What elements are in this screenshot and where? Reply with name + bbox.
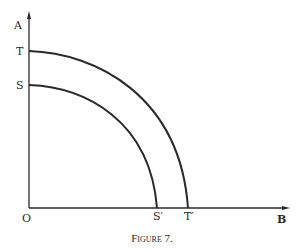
figure-caption: Figure 7. [131, 232, 173, 244]
label-origin: O [22, 212, 31, 225]
figure-7-diagram: A T S O S′ T′ B Figure 7. [0, 0, 304, 249]
label-S: S [16, 79, 24, 92]
inner-curve-S [29, 85, 157, 208]
label-T: T [16, 45, 24, 58]
label-T-prime: T′ [184, 210, 194, 223]
outer-curve-T [29, 51, 188, 208]
x-axis-arrow-icon [282, 206, 290, 210]
y-axis-label: A [13, 19, 23, 32]
y-axis-arrow-icon [27, 11, 31, 19]
x-axis-label: B [277, 213, 286, 226]
label-S-prime: S′ [153, 210, 164, 223]
